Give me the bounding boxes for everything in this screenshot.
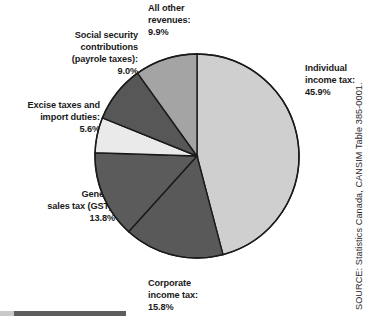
pie-graphic — [94, 53, 300, 259]
bottom-rule-bar — [0, 311, 126, 316]
slice-label-excise-taxes: Excise taxes and import duties: 5.6% — [2, 99, 100, 135]
source-credit: SOURCE: Statistics Canada, CANSIM Table … — [352, 78, 368, 310]
slice-label-all-other-revenues: All other revenues: 9.9% — [148, 2, 238, 38]
slice-label-corporate-income-tax: Corporate income tax: 15.8% — [148, 277, 244, 313]
bottom-rule-light-segment — [0, 311, 14, 316]
pie-slices-svg — [94, 53, 300, 259]
pie-chart-figure: All other revenues: 9.9% Social security… — [0, 0, 373, 321]
bottom-rule-dark-segment — [14, 311, 126, 316]
source-credit-text: SOURCE: Statistics Canada, CANSIM Table … — [352, 78, 366, 310]
